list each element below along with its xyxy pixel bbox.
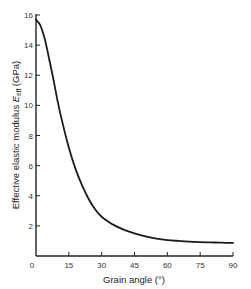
data-line bbox=[36, 20, 233, 243]
x-tick-label: 30 bbox=[97, 261, 106, 270]
y-tick-label: 2 bbox=[29, 222, 34, 231]
x-tick-label: 60 bbox=[163, 261, 172, 270]
y-tick-label: 10 bbox=[24, 101, 33, 110]
line-chart: 246810121416 0153045607590 Grain angle (… bbox=[0, 0, 251, 289]
y-axis-title: Effective elastic modulus Eeff (GPa) bbox=[10, 61, 22, 209]
y-tick-label: 4 bbox=[29, 192, 34, 201]
y-tick-label: 16 bbox=[24, 11, 33, 20]
x-axis-title: Grain angle (°) bbox=[103, 274, 165, 285]
x-tick-label: 45 bbox=[130, 261, 139, 270]
y-tick-label: 6 bbox=[29, 162, 34, 171]
x-tick-label: 75 bbox=[196, 261, 205, 270]
x-tick-label: 90 bbox=[229, 261, 238, 270]
x-tick-label: 0 bbox=[30, 261, 35, 270]
y-tick-label: 8 bbox=[29, 132, 34, 141]
y-tick-label: 12 bbox=[24, 71, 33, 80]
y-ticks: 246810121416 bbox=[24, 11, 40, 231]
x-tick-label: 15 bbox=[64, 261, 73, 270]
y-tick-label: 14 bbox=[24, 41, 33, 50]
x-ticks: 0153045607590 bbox=[30, 252, 238, 270]
